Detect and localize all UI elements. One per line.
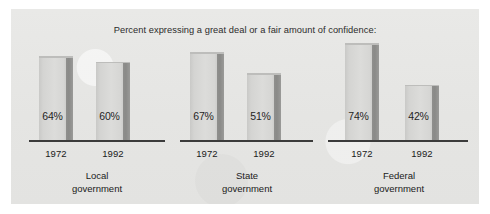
bar-value-label: 67% <box>190 110 217 122</box>
bar-rect: 42% <box>405 85 439 140</box>
group-label-local: Local government <box>27 170 167 195</box>
chart-panel: Percent expressing a great deal or a fai… <box>11 9 479 204</box>
bar-value-label: 64% <box>39 110 66 122</box>
tick-label-state-1972: 1972 <box>190 148 224 159</box>
bar-group-federal: 74% 1972 42% 1992 Federal government <box>327 35 471 195</box>
tick-label-federal-1992: 1992 <box>405 148 439 159</box>
chart-title: Percent expressing a great deal or a fai… <box>11 25 479 35</box>
bar-group-local: 64% 1972 60% 1992 Local government <box>27 35 167 195</box>
group-label-federal: Federal government <box>327 170 471 195</box>
bar-state-1992[interactable]: 51% <box>247 73 281 139</box>
group-label-line1: Federal <box>327 170 471 183</box>
axis-baseline-local <box>29 140 165 143</box>
bar-local-1992[interactable]: 60% <box>96 62 130 140</box>
tick-label-local-1992: 1992 <box>96 148 130 159</box>
group-label-state: State government <box>179 170 315 195</box>
bar-rect: 67% <box>190 52 224 139</box>
bar-value-label: 60% <box>96 110 123 122</box>
bar-rect: 74% <box>345 43 379 139</box>
axis-baseline-state <box>180 140 313 143</box>
group-label-line1: State <box>179 170 315 183</box>
bar-rect: 51% <box>247 73 281 139</box>
group-label-line1: Local <box>27 170 167 183</box>
figure: Percent expressing a great deal or a fai… <box>0 0 490 214</box>
bar-rect: 60% <box>96 62 130 140</box>
group-label-line2: government <box>327 183 471 196</box>
group-label-line2: government <box>179 183 315 196</box>
tick-label-federal-1972: 1972 <box>345 148 379 159</box>
group-label-line2: government <box>27 183 167 196</box>
bar-federal-1972[interactable]: 74% <box>345 43 379 139</box>
bar-state-1972[interactable]: 67% <box>190 52 224 139</box>
bar-federal-1992[interactable]: 42% <box>405 85 439 140</box>
bar-value-label: 74% <box>345 110 372 122</box>
bar-rect: 64% <box>39 56 73 139</box>
bar-value-label: 51% <box>247 110 274 122</box>
axis-baseline-federal <box>328 140 468 143</box>
tick-label-local-1972: 1972 <box>39 148 73 159</box>
bar-local-1972[interactable]: 64% <box>39 56 73 139</box>
bar-group-state: 67% 1972 51% 1992 State government <box>179 35 315 195</box>
tick-label-state-1992: 1992 <box>247 148 281 159</box>
bar-value-label: 42% <box>405 110 432 122</box>
